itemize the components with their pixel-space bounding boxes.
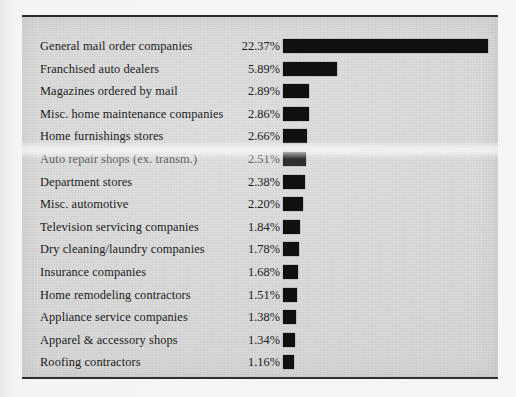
chart-panel: General mail order companies22.37%Franch… bbox=[22, 16, 498, 378]
category-label: Apparel & accessory shops bbox=[40, 333, 230, 347]
bar-track bbox=[283, 310, 488, 324]
category-label: Auto repair shops (ex. transm.) bbox=[40, 152, 230, 166]
chart-row: Insurance companies1.68% bbox=[22, 261, 498, 283]
bar-track bbox=[283, 152, 488, 166]
bar-track bbox=[283, 197, 488, 211]
bar bbox=[283, 152, 306, 166]
bar-track bbox=[283, 62, 488, 76]
category-label: General mail order companies bbox=[40, 39, 230, 53]
chart-row: Roofing contractors1.16% bbox=[22, 351, 498, 373]
value-label: 2.89% bbox=[218, 84, 280, 98]
bar bbox=[283, 175, 305, 189]
bar-track bbox=[283, 288, 488, 302]
bar-track bbox=[283, 355, 488, 369]
scanned-chart-page: General mail order companies22.37%Franch… bbox=[0, 0, 516, 397]
bar-track bbox=[283, 129, 488, 143]
bar bbox=[283, 197, 303, 211]
value-label: 1.68% bbox=[218, 265, 280, 279]
category-label: Misc. home maintenance companies bbox=[40, 107, 230, 121]
bar bbox=[283, 84, 309, 98]
bar-chart-rows: General mail order companies22.37%Franch… bbox=[22, 16, 498, 378]
category-label: Misc. automotive bbox=[40, 197, 230, 211]
value-label: 1.16% bbox=[218, 355, 280, 369]
category-label: Department stores bbox=[40, 175, 230, 189]
bar bbox=[283, 242, 299, 256]
bar bbox=[283, 220, 300, 234]
value-label: 1.78% bbox=[218, 242, 280, 256]
bar-track bbox=[283, 242, 488, 256]
chart-row: Appliance service companies1.38% bbox=[22, 306, 498, 328]
category-label: Appliance service companies bbox=[40, 310, 230, 324]
value-label: 2.66% bbox=[218, 129, 280, 143]
value-label: 5.89% bbox=[218, 62, 280, 76]
bar bbox=[283, 107, 309, 121]
chart-row: General mail order companies22.37% bbox=[22, 35, 498, 57]
category-label: Roofing contractors bbox=[40, 355, 230, 369]
chart-row: Home remodeling contractors1.51% bbox=[22, 284, 498, 306]
bar bbox=[283, 288, 297, 302]
value-label: 2.38% bbox=[218, 175, 280, 189]
chart-row: Franchised auto dealers5.89% bbox=[22, 58, 498, 80]
category-label: Dry cleaning/laundry companies bbox=[40, 242, 230, 256]
value-label: 2.20% bbox=[218, 197, 280, 211]
chart-row: Magazines ordered by mail2.89% bbox=[22, 80, 498, 102]
bar-track bbox=[283, 265, 488, 279]
value-label: 1.34% bbox=[218, 333, 280, 347]
category-label: Franchised auto dealers bbox=[40, 62, 230, 76]
bar-track bbox=[283, 39, 488, 53]
category-label: Home furnishings stores bbox=[40, 129, 230, 143]
bar bbox=[283, 39, 488, 53]
bottom-rule-divider bbox=[22, 377, 498, 379]
bar bbox=[283, 355, 294, 369]
bar bbox=[283, 265, 298, 279]
bar-track bbox=[283, 220, 488, 234]
value-label: 1.84% bbox=[218, 220, 280, 234]
category-label: Television servicing companies bbox=[40, 220, 230, 234]
chart-row: Misc. automotive2.20% bbox=[22, 193, 498, 215]
chart-row: Department stores2.38% bbox=[22, 171, 498, 193]
bar bbox=[283, 333, 295, 347]
category-label: Insurance companies bbox=[40, 265, 230, 279]
bar-track bbox=[283, 84, 488, 98]
category-label: Magazines ordered by mail bbox=[40, 84, 230, 98]
value-label: 1.38% bbox=[218, 310, 280, 324]
category-label: Home remodeling contractors bbox=[40, 288, 230, 302]
bar bbox=[283, 62, 337, 76]
value-label: 1.51% bbox=[218, 288, 280, 302]
chart-row: Home furnishings stores2.66% bbox=[22, 125, 498, 147]
value-label: 2.51% bbox=[218, 152, 280, 166]
bar-track bbox=[283, 107, 488, 121]
value-label: 22.37% bbox=[218, 39, 280, 53]
chart-row: Misc. home maintenance companies2.86% bbox=[22, 103, 498, 125]
chart-row: Auto repair shops (ex. transm.)2.51% bbox=[22, 148, 498, 170]
chart-row: Dry cleaning/laundry companies1.78% bbox=[22, 238, 498, 260]
bar bbox=[283, 310, 296, 324]
bar-track bbox=[283, 175, 488, 189]
chart-row: Apparel & accessory shops1.34% bbox=[22, 329, 498, 351]
chart-row: Television servicing companies1.84% bbox=[22, 216, 498, 238]
value-label: 2.86% bbox=[218, 107, 280, 121]
bar bbox=[283, 129, 307, 143]
top-rule-divider bbox=[22, 15, 498, 17]
bar-track bbox=[283, 333, 488, 347]
